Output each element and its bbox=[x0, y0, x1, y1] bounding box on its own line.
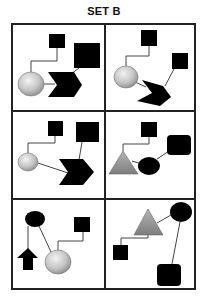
black-ellipse bbox=[170, 202, 192, 222]
black-up-arrow bbox=[17, 248, 38, 270]
gray-circle bbox=[45, 250, 71, 274]
rounded-square bbox=[167, 135, 191, 155]
panel-5 bbox=[17, 211, 90, 274]
black-ellipse bbox=[138, 157, 160, 175]
large-square bbox=[76, 122, 99, 142]
panel-1 bbox=[18, 34, 100, 97]
gray-triangle bbox=[109, 151, 138, 174]
gray-circle bbox=[18, 72, 44, 96]
black-ellipse bbox=[25, 211, 45, 227]
gray-circle bbox=[114, 66, 138, 88]
panel-3 bbox=[18, 121, 99, 185]
puzzle-grid bbox=[0, 0, 206, 305]
panel-6 bbox=[113, 202, 192, 286]
small-square bbox=[74, 217, 90, 232]
small-square bbox=[49, 34, 65, 48]
small-square bbox=[48, 121, 63, 136]
small-square bbox=[141, 122, 157, 137]
grid-lines bbox=[12, 24, 195, 289]
panel-2 bbox=[114, 30, 188, 106]
large-square bbox=[74, 43, 100, 68]
rounded-square bbox=[157, 264, 181, 286]
small-square bbox=[113, 245, 128, 260]
small-square bbox=[141, 30, 157, 46]
gray-circle bbox=[18, 153, 38, 171]
panel-4 bbox=[109, 122, 191, 175]
right-square bbox=[172, 53, 188, 69]
